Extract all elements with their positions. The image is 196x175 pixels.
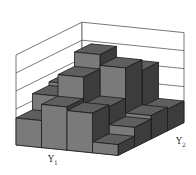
bar-front <box>16 118 42 148</box>
axis-label-y2: Y2 <box>176 136 186 148</box>
bar-front <box>67 111 93 153</box>
bar-front <box>93 142 119 155</box>
axis-label-y1: Y1 <box>48 154 58 166</box>
bar-front <box>42 104 68 150</box>
bar3d-chart <box>0 0 196 175</box>
